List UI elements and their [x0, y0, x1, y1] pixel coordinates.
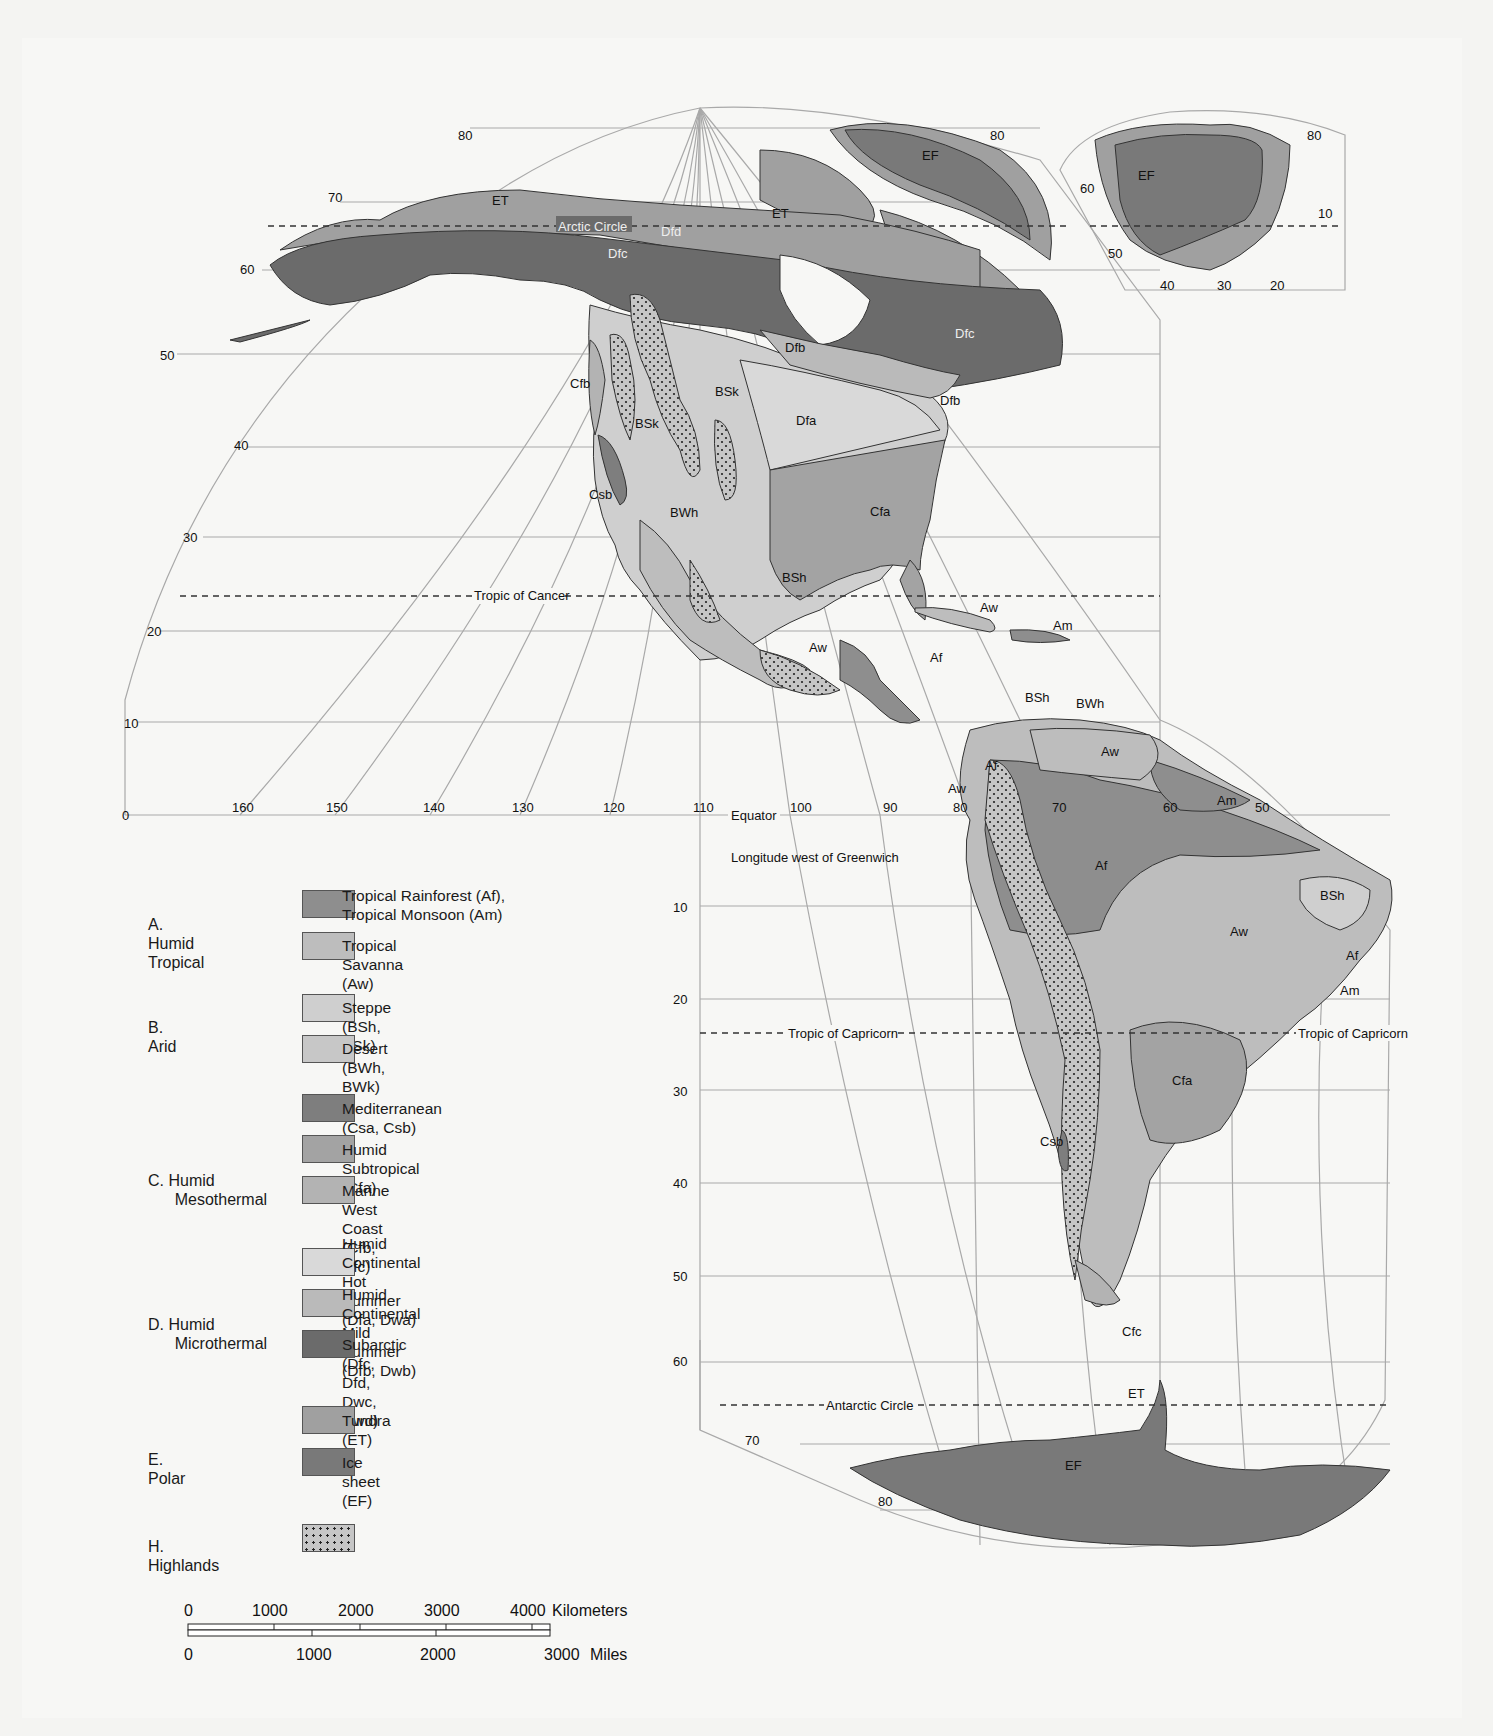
svg-text:Af: Af — [1095, 858, 1108, 873]
svg-text:10: 10 — [1318, 206, 1332, 221]
svg-text:Dfd: Dfd — [661, 224, 681, 239]
svg-text:BSh: BSh — [1320, 888, 1345, 903]
svg-text:60: 60 — [1080, 181, 1094, 196]
svg-text:Dfa: Dfa — [796, 413, 817, 428]
svg-text:150: 150 — [326, 800, 348, 815]
svg-text:Aw: Aw — [948, 781, 966, 796]
svg-text:Aw: Aw — [980, 600, 998, 615]
svg-text:60: 60 — [673, 1354, 687, 1369]
svg-text:Longitude west of Greenwich: Longitude west of Greenwich — [731, 850, 899, 865]
svg-text:Csb: Csb — [1040, 1134, 1063, 1149]
svg-text:EF: EF — [1065, 1458, 1082, 1473]
svg-text:80: 80 — [990, 128, 1004, 143]
scale-km-2000: 2000 — [338, 1602, 374, 1620]
legend-item-mediterranean: Mediterranean (Csa, Csb) — [342, 1099, 442, 1137]
scale-km-unit: Kilometers — [552, 1602, 628, 1620]
svg-text:120: 120 — [603, 800, 625, 815]
svg-text:EF: EF — [922, 148, 939, 163]
svg-text:30: 30 — [183, 530, 197, 545]
svg-text:110: 110 — [693, 800, 714, 815]
svg-text:Tropic of Capricorn: Tropic of Capricorn — [788, 1026, 898, 1041]
legend-group-humid-mesothermal: C. Humid Mesothermal — [148, 1171, 267, 1209]
map-page: 80 70 60 50 40 30 20 10 0 80 160 150 140… — [22, 38, 1462, 1718]
svg-text:Am: Am — [1217, 793, 1237, 808]
svg-text:Tropic of Capricorn: Tropic of Capricorn — [1298, 1026, 1408, 1041]
legend-item-tropical-savanna: Tropical Savanna (Aw) — [342, 936, 403, 993]
svg-text:Aw: Aw — [1230, 924, 1248, 939]
svg-text:BSh: BSh — [1025, 690, 1050, 705]
svg-text:40: 40 — [234, 438, 248, 453]
svg-text:50: 50 — [1255, 800, 1269, 815]
svg-text:100: 100 — [790, 800, 812, 815]
svg-text:BSh: BSh — [782, 570, 807, 585]
svg-text:Af: Af — [985, 758, 998, 773]
svg-text:90: 90 — [883, 800, 897, 815]
scale-mi-2000: 2000 — [420, 1646, 456, 1664]
scale-mi-3000: 3000 — [544, 1646, 580, 1664]
svg-text:Dfc: Dfc — [955, 326, 975, 341]
svg-text:BSk: BSk — [715, 384, 739, 399]
svg-text:80: 80 — [953, 800, 967, 815]
svg-text:30: 30 — [1217, 278, 1231, 293]
svg-text:10: 10 — [124, 716, 138, 731]
svg-text:Cfb: Cfb — [570, 376, 590, 391]
svg-text:ET: ET — [492, 193, 509, 208]
legend-item-ice-sheet: Ice sheet (EF) — [342, 1453, 380, 1510]
svg-text:20: 20 — [673, 992, 687, 1007]
legend-group-polar: E. Polar — [148, 1450, 185, 1488]
svg-text:50: 50 — [673, 1269, 687, 1284]
south-latitude-labels: 10 20 30 40 50 60 70 80 — [673, 900, 892, 1509]
legend-group-arid: B. Arid — [148, 1018, 176, 1056]
legend-group-humid-tropical: A. Humid Tropical — [148, 915, 204, 972]
svg-text:Equator: Equator — [731, 808, 777, 823]
svg-text:50: 50 — [160, 348, 174, 363]
scale-bar-graphic — [182, 1620, 602, 1642]
legend-item-tundra: Tundra (ET) — [342, 1411, 391, 1449]
svg-text:Tropic of Cancer: Tropic of Cancer — [474, 588, 570, 603]
svg-text:Antarctic Circle: Antarctic Circle — [826, 1398, 913, 1413]
svg-text:Af: Af — [1346, 948, 1359, 963]
scale-mi-1000: 1000 — [296, 1646, 332, 1664]
legend-group-humid-microthermal: D. Humid Microthermal — [148, 1315, 267, 1353]
svg-text:70: 70 — [1052, 800, 1066, 815]
svg-text:BWh: BWh — [670, 505, 698, 520]
legend-group-highlands: H. Highlands — [148, 1537, 219, 1575]
svg-text:Csb: Csb — [589, 487, 612, 502]
svg-text:Arctic Circle: Arctic Circle — [558, 219, 627, 234]
climate-map: 80 70 60 50 40 30 20 10 0 80 160 150 140… — [22, 38, 1462, 1718]
swatch-highlands — [302, 1524, 355, 1552]
legend-item-desert: Desert (BWh, BWk) — [342, 1039, 388, 1096]
svg-text:Aw: Aw — [809, 640, 827, 655]
svg-text:130: 130 — [512, 800, 534, 815]
scale-km-3000: 3000 — [424, 1602, 460, 1620]
legend-item-tropical-rainforest: Tropical Rainforest (Af), Tropical Monso… — [342, 886, 562, 924]
svg-text:160: 160 — [232, 800, 254, 815]
svg-text:ET: ET — [772, 206, 789, 221]
svg-text:80: 80 — [458, 128, 472, 143]
svg-text:50: 50 — [1108, 246, 1122, 261]
svg-text:60: 60 — [240, 262, 254, 277]
svg-text:BSk: BSk — [635, 416, 659, 431]
svg-text:Dfb: Dfb — [940, 393, 960, 408]
svg-text:Am: Am — [1053, 618, 1073, 633]
svg-text:70: 70 — [328, 190, 342, 205]
svg-text:0: 0 — [122, 808, 129, 823]
svg-text:20: 20 — [1270, 278, 1284, 293]
svg-text:Cfa: Cfa — [870, 504, 891, 519]
scale-mi-unit: Miles — [590, 1646, 627, 1664]
svg-text:40: 40 — [673, 1176, 687, 1191]
svg-text:Cfc: Cfc — [1122, 1324, 1142, 1339]
scale-km-0: 0 — [184, 1602, 193, 1620]
svg-text:BWh: BWh — [1076, 696, 1104, 711]
svg-text:80: 80 — [1307, 128, 1321, 143]
svg-text:30: 30 — [673, 1084, 687, 1099]
svg-text:60: 60 — [1163, 800, 1177, 815]
svg-text:Am: Am — [1340, 983, 1360, 998]
scale-mi-0: 0 — [184, 1646, 193, 1664]
svg-text:Af: Af — [930, 650, 943, 665]
svg-text:EF: EF — [1138, 168, 1155, 183]
svg-text:Dfb: Dfb — [785, 340, 805, 355]
scale-km-4000: 4000 — [510, 1602, 546, 1620]
svg-text:Cfa: Cfa — [1172, 1073, 1193, 1088]
svg-text:20: 20 — [147, 624, 161, 639]
